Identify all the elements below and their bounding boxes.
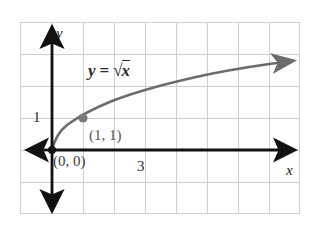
plot-area	[20, 22, 300, 214]
equation-lhs: y	[88, 61, 96, 80]
point-label-1-1: (1, 1)	[89, 128, 122, 143]
x-axis-label: x	[286, 163, 293, 178]
equation-label: y=√x	[88, 62, 130, 79]
equation-operator: =	[96, 61, 114, 80]
graph-figure: y x 1 3 y=√x (1, 1) (0, 0)	[0, 0, 320, 230]
coordinate-axes	[20, 22, 300, 214]
y-tick-label-1: 1	[33, 110, 41, 125]
point-label-origin: (0, 0)	[53, 154, 86, 169]
radicand: x	[122, 60, 131, 80]
y-axis-label: y	[56, 26, 63, 41]
x-tick-label-3: 3	[137, 159, 145, 174]
